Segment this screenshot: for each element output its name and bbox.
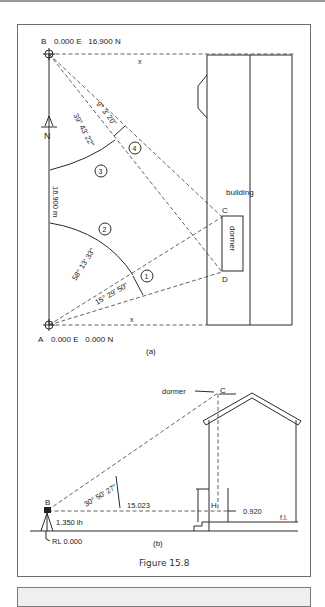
angle-3-value: 39° 43' 22" [71,112,96,149]
dormer-label: dormer [228,226,237,252]
angle-4-value: 9° 3' 20" [94,100,119,128]
sight-line-to-C [48,393,218,510]
station-B-coords: 0.000 E 16.900 N [54,37,121,46]
x-mark-top: x [138,58,142,65]
station-A-coords: 0.000 E 0.000 N [51,335,113,344]
vertical-angle-arc [116,476,120,508]
panel-b-label: (b) [153,539,163,548]
baseline-length-label: 16.900 m [51,186,60,217]
point-H-label: H [211,501,217,510]
sight-B-C [49,54,222,217]
point-C-section-label: C [220,386,226,395]
point-D-label: D [222,275,228,284]
arc-angle-4 [114,126,125,136]
svg-text:3: 3 [99,168,103,175]
vertical-angle-label: 30° 50' 27" [82,482,118,509]
rl-leader-tick [46,539,50,541]
angle-2-value: 58° 13' 33" [70,246,97,282]
horizontal-distance-label: 15.023 [127,501,150,510]
dormer-section-label: dormer [162,387,186,396]
angle-marker-2: 2 [99,223,111,235]
section-view: B 30° 50' 27" 15.023 1.350 ih RL 0.000 d… [30,386,301,548]
angle-marker-1: 1 [141,270,153,282]
plan-view: N x x B 0.000 E 16.900 N A [38,37,295,356]
floor-level-label: f.l. [280,514,287,521]
figure-caption: Figure 15.8 [139,558,190,568]
svg-text:4: 4 [133,145,137,152]
station-A-label: A [38,335,44,344]
angle-marker-3: 3 [95,165,107,177]
svg-text:2: 2 [103,226,107,233]
station-A-icon [43,319,55,331]
station-B-icon [43,48,55,60]
instrument-height-label: 1.350 ih [56,518,83,527]
staff-reading-label: 0.920 [243,507,262,516]
building-label: building [226,188,254,197]
svg-text:1: 1 [145,273,149,280]
instrument-B-label: B [45,498,50,507]
angle-marker-4: 4 [129,142,141,154]
reduced-level-label: RL 0.000 [52,537,82,546]
sight-B-D [49,54,222,272]
point-C-label: C [222,206,228,215]
dormer-leader [195,391,214,392]
arc-angle-3 [50,140,115,170]
panel-a-label: (a) [146,347,156,356]
x-mark-bottom: x [130,316,134,323]
north-label: N [44,131,51,141]
station-B-label: B [41,37,46,46]
bay-projection [198,75,207,118]
